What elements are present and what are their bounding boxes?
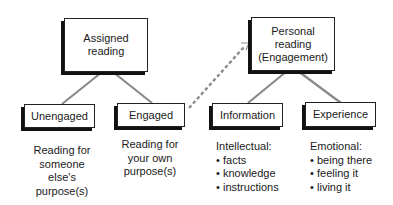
node-label: Information [220,109,275,122]
connector-personal-to-information [248,71,287,103]
bullet-icon: • [310,167,317,181]
description-line: your own [115,152,185,166]
bullet-item: •knowledge [216,167,279,181]
description-information: Intellectual: •facts •knowledge •instruc… [216,140,279,194]
node-experience: Experience [305,102,376,127]
node-label: Assigned reading [83,32,128,58]
node-engaged: Engaged [117,103,185,127]
node-label: Personal reading (Engagement) [258,25,328,64]
bullet-item: •instructions [216,181,279,195]
description-line: purpose(s) [115,165,185,179]
node-label: Experience [313,108,368,121]
bullet-icon: • [216,154,223,168]
node-label: Unengaged [31,110,88,123]
description-experience: Emotional: •being there •feeling it •liv… [310,140,372,194]
description-line: purpose(s) [22,185,102,199]
bullet-icon: • [310,181,317,195]
bullet-icon: • [216,181,223,195]
description-line: someone [22,158,102,172]
bullet-icon: • [216,167,223,181]
bullet-item: •living it [310,181,372,195]
node-unengaged: Unengaged [24,104,95,128]
description-line: else's [22,171,102,185]
description-engaged: Reading for your own purpose(s) [115,138,185,179]
bullet-item: •being there [310,154,372,168]
connector-personal-to-experience [298,71,341,103]
node-assigned-reading: Assigned reading [64,18,148,72]
connector-assigned-to-unengaged [62,72,102,104]
dashed-arrow-engaged-to-personal [189,43,249,108]
description-line: Reading for [115,138,185,152]
bullet-item: •facts [216,154,279,168]
bullet-list: •being there •feeling it •living it [310,154,372,195]
description-unengaged: Reading for someone else's purpose(s) [22,144,102,198]
node-label: Engaged [129,109,173,122]
node-personal-reading: Personal reading (Engagement) [251,17,335,71]
connector-assigned-to-engaged [113,72,152,103]
bullet-item: •feeling it [310,167,372,181]
description-line: Reading for [22,144,102,158]
bullet-icon: • [310,154,317,168]
description-heading: Emotional: [310,140,372,154]
description-heading: Intellectual: [216,140,279,154]
bullet-list: •facts •knowledge •instructions [216,154,279,195]
node-information: Information [212,103,283,127]
